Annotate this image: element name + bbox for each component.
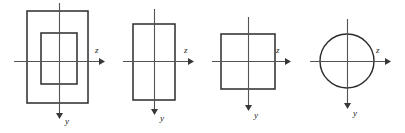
y-axis-arrowhead-icon xyxy=(245,105,252,111)
figure-square: z y xyxy=(210,0,300,133)
y-axis-label: y xyxy=(159,113,164,123)
figure-1-canvas: z y xyxy=(0,0,120,133)
z-axis-label: z xyxy=(94,45,99,55)
figure-2-canvas: z y xyxy=(120,0,210,133)
y-axis-arrowhead-icon xyxy=(344,103,351,109)
figure-circle: z y xyxy=(300,0,405,133)
z-axis-label: z xyxy=(275,45,280,55)
y-axis-label: y xyxy=(253,110,258,120)
y-axis-arrowhead-icon xyxy=(56,113,63,119)
y-axis-label: y xyxy=(64,116,69,126)
z-axis-arrowhead-icon xyxy=(99,58,105,65)
z-axis-label: z xyxy=(183,45,188,55)
z-axis-arrowhead-icon xyxy=(285,58,291,65)
z-axis-arrowhead-icon xyxy=(385,58,391,65)
figure-tall-rectangle: z y xyxy=(120,0,210,133)
figure-4-canvas: z y xyxy=(300,0,405,133)
y-axis-arrowhead-icon xyxy=(151,109,158,115)
figure-hollow-rectangle: z y xyxy=(0,0,120,133)
outer-rectangle-outline xyxy=(27,11,88,103)
y-axis-label: y xyxy=(352,108,357,118)
z-axis-arrowhead-icon xyxy=(188,58,194,65)
z-axis-label: z xyxy=(375,45,380,55)
cross-section-figure-board: z y z y z y xyxy=(0,0,405,133)
figure-3-canvas: z y xyxy=(210,0,300,133)
